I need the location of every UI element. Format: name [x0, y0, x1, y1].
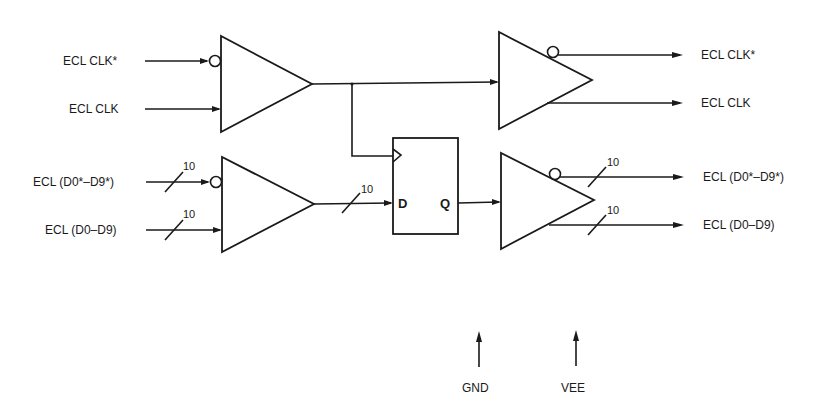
data-input-receiver: 10 10 ECL (D0*–D9*) ECL (D0–D9) — [33, 157, 314, 252]
data-driver-triangle — [501, 153, 594, 249]
data-bus-width: 10 — [183, 208, 195, 220]
gnd-label: GND — [462, 381, 489, 395]
vee-arrowhead — [573, 330, 579, 341]
gnd-arrowhead — [476, 331, 482, 342]
input-label-clk-inv: ECL CLK* — [63, 54, 118, 68]
data-to-flipflop-wire — [314, 203, 391, 204]
clock-output-driver: ECL CLK* ECL CLK — [499, 32, 756, 129]
data-inv-inversion-bubble — [211, 177, 222, 188]
data-inv-input-arrowhead — [201, 179, 210, 185]
data-inv-output-bubble — [550, 169, 561, 180]
clock-driver-triangle — [499, 32, 592, 129]
power-pins: GND VEE — [462, 330, 585, 395]
flipflop-d-pin: D — [398, 196, 407, 211]
vee-label: VEE — [561, 381, 585, 395]
clock-input-receiver: ECL CLK* ECL CLK — [63, 36, 312, 132]
clock-bus-wire — [312, 82, 497, 84]
data-inv-bus-width: 10 — [183, 160, 195, 172]
input-label-data-inv: ECL (D0*–D9*) — [33, 175, 114, 189]
data-inv-output-bus-width: 10 — [607, 156, 619, 168]
output-label-data: ECL (D0–D9) — [703, 218, 775, 232]
ecl-block-diagram: ECL CLK* ECL CLK 10 10 ECL (D0*–D9*) ECL… — [0, 0, 830, 415]
clock-to-flipflop-wire — [352, 84, 393, 156]
data-output-driver: 10 10 ECL (D0*–D9*) ECL (D0–D9) — [501, 153, 784, 249]
flipflop-q-pin: Q — [440, 196, 450, 211]
data-receiver-triangle — [222, 157, 314, 252]
output-label-clk: ECL CLK — [701, 96, 751, 110]
clock-receiver-triangle — [221, 36, 312, 132]
data-to-flipflop-arrowhead — [384, 200, 393, 206]
data-inv-output-arrowhead — [673, 174, 684, 180]
clk-output-arrowhead — [672, 100, 683, 106]
input-label-data: ECL (D0–D9) — [45, 223, 117, 237]
flipflop-q-output-arrowhead — [492, 199, 501, 205]
output-label-data-inv: ECL (D0*–D9*) — [703, 170, 784, 184]
clock-bus-arrowhead — [490, 79, 499, 85]
clk-inv-inversion-bubble — [210, 56, 221, 67]
flipflop-body — [393, 138, 458, 234]
output-label-clk-inv: ECL CLK* — [701, 48, 756, 62]
clk-inv-output-bubble — [548, 47, 559, 58]
clk-input-arrowhead — [212, 106, 221, 112]
d-flipflop-register: D Q 10 — [314, 138, 501, 234]
flipflop-d-bus-width: 10 — [361, 183, 373, 195]
clk-inv-output-arrowhead — [672, 52, 683, 58]
clk-inv-input-arrowhead — [200, 58, 209, 64]
data-output-arrowhead — [673, 222, 684, 228]
data-input-arrowhead — [213, 227, 222, 233]
data-output-bus-width: 10 — [607, 204, 619, 216]
input-label-clk: ECL CLK — [69, 102, 119, 116]
